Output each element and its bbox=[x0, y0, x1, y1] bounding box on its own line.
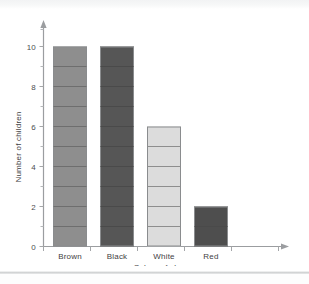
y-axis-arrow-icon bbox=[40, 20, 46, 28]
x-axis-category-labels: Brown Black White Red bbox=[58, 252, 218, 261]
bar-black[interactable] bbox=[100, 47, 134, 247]
x-tick-label-red: Red bbox=[203, 252, 218, 261]
chart-page: 0 2 4 6 8 10 Number of children bbox=[0, 0, 309, 284]
y-tick-label-0: 0 bbox=[31, 243, 36, 252]
bar-chart: 0 2 4 6 8 10 Number of children bbox=[0, 0, 309, 266]
bar-red[interactable] bbox=[194, 207, 228, 247]
page-bottom-band bbox=[0, 274, 309, 284]
bar-brown[interactable] bbox=[53, 47, 87, 247]
x-tick-label-white: White bbox=[153, 252, 175, 261]
x-axis-arrow-icon bbox=[281, 243, 289, 249]
y-tick-label-8: 8 bbox=[31, 83, 36, 92]
x-axis-title: Colour of shoes bbox=[133, 263, 192, 266]
x-tick-label-black: Black bbox=[107, 252, 128, 261]
x-axis-ticks bbox=[44, 247, 279, 252]
bar-white[interactable] bbox=[147, 127, 181, 247]
x-tick-label-brown: Brown bbox=[58, 252, 82, 261]
y-axis-title: Number of children bbox=[14, 111, 23, 182]
y-tick-label-2: 2 bbox=[31, 203, 36, 212]
y-tick-label-10: 10 bbox=[27, 43, 37, 52]
y-axis-tick-labels: 0 2 4 6 8 10 bbox=[27, 43, 37, 252]
y-axis bbox=[40, 20, 46, 247]
bar-chart-svg: 0 2 4 6 8 10 Number of children bbox=[0, 0, 309, 266]
y-tick-label-4: 4 bbox=[31, 163, 36, 172]
y-tick-label-6: 6 bbox=[31, 123, 36, 132]
